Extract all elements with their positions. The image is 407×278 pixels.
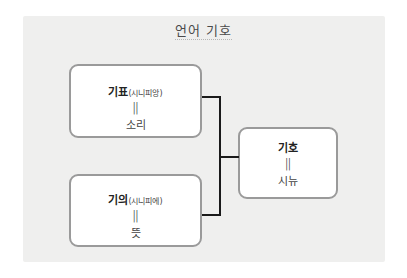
diagram-title: 언어 기호: [0, 20, 407, 39]
connector-to-sign: [219, 156, 239, 158]
sign-box: 기호 || 시뉴: [238, 127, 338, 199]
equals-sign: ||: [254, 158, 321, 170]
diagram-title-text: 언어 기호: [175, 23, 232, 40]
signifier-box: 기표(시니피앙) || 소리: [69, 64, 202, 138]
signifier-label: 기표: [108, 86, 128, 99]
signified-box: 기의(시니피에) || 뜻: [69, 174, 202, 247]
sign-label: 기호: [240, 139, 336, 155]
connector-bottom-horizontal: [202, 214, 221, 216]
signified-sublabel: (시니피에): [128, 197, 162, 206]
signified-heading: 기의(시니피에): [71, 191, 200, 207]
signified-label: 기의: [108, 194, 128, 207]
signifier-sublabel: (시니피앙): [128, 89, 162, 98]
sign-value: 시뉴: [240, 172, 336, 188]
signifier-heading: 기표(시니피앙): [71, 83, 200, 99]
signifier-value: 소리: [71, 116, 200, 132]
equals-sign: ||: [90, 102, 180, 114]
equals-sign: ||: [90, 210, 180, 222]
signified-value: 뜻: [71, 224, 200, 240]
